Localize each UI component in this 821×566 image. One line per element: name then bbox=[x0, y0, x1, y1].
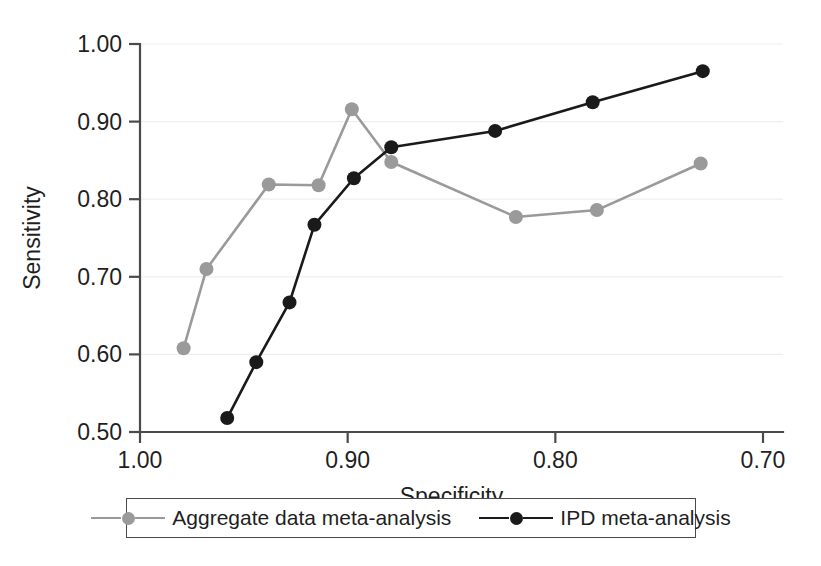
legend-item-ipd[interactable]: IPD meta-analysis bbox=[479, 506, 730, 530]
data-point[interactable] bbox=[177, 341, 191, 355]
data-point[interactable] bbox=[262, 177, 276, 191]
y-tick-label: 0.50 bbox=[77, 419, 122, 445]
legend-dot-icon bbox=[510, 512, 523, 525]
y-axis-title: Sensitivity bbox=[19, 186, 45, 290]
legend-line-right-segment bbox=[523, 517, 553, 520]
roc-chart-figure: 0.500.600.700.800.901.001.000.900.800.70… bbox=[0, 0, 821, 566]
data-point[interactable] bbox=[220, 411, 234, 425]
data-point[interactable] bbox=[590, 203, 604, 217]
data-point[interactable] bbox=[509, 210, 523, 224]
y-tick-label: 1.00 bbox=[77, 31, 122, 57]
legend-line-right-segment bbox=[135, 517, 165, 520]
data-point[interactable] bbox=[345, 102, 359, 116]
data-point[interactable] bbox=[283, 295, 297, 309]
legend-line-left-segment bbox=[479, 517, 509, 520]
data-point[interactable] bbox=[199, 262, 213, 276]
legend-label-aggregate: Aggregate data meta-analysis bbox=[172, 506, 451, 530]
series-line-1 bbox=[227, 71, 703, 418]
data-point[interactable] bbox=[488, 124, 502, 138]
y-tick-label: 0.80 bbox=[77, 186, 122, 212]
x-tick-label: 1.00 bbox=[118, 447, 163, 473]
data-point[interactable] bbox=[694, 157, 708, 171]
data-point[interactable] bbox=[384, 155, 398, 169]
x-tick-label: 0.90 bbox=[325, 447, 370, 473]
series-line-0 bbox=[184, 109, 701, 348]
x-tick-label: 0.80 bbox=[533, 447, 578, 473]
data-point[interactable] bbox=[312, 178, 326, 192]
y-tick-label: 0.70 bbox=[77, 264, 122, 290]
data-series bbox=[177, 64, 710, 425]
legend-marker-ipd-icon bbox=[479, 509, 553, 527]
y-tick-label: 0.60 bbox=[77, 341, 122, 367]
data-point[interactable] bbox=[696, 64, 710, 78]
grid-lines bbox=[140, 44, 783, 432]
data-point[interactable] bbox=[384, 140, 398, 154]
legend-item-aggregate[interactable]: Aggregate data meta-analysis bbox=[91, 506, 451, 530]
data-point[interactable] bbox=[249, 355, 263, 369]
data-point[interactable] bbox=[586, 95, 600, 109]
y-tick-label: 0.90 bbox=[77, 109, 122, 135]
legend-line-left-segment bbox=[91, 517, 121, 520]
data-point[interactable] bbox=[307, 218, 321, 232]
legend-marker-aggregate-icon bbox=[91, 509, 165, 527]
legend-label-ipd: IPD meta-analysis bbox=[560, 506, 730, 530]
tick-labels: 0.500.600.700.800.901.001.000.900.800.70 bbox=[77, 31, 785, 473]
chart-legend: Aggregate data meta-analysis IPD meta-an… bbox=[126, 498, 696, 538]
axes bbox=[140, 44, 783, 432]
x-tick-label: 0.70 bbox=[741, 447, 786, 473]
legend-dot-icon bbox=[122, 512, 135, 525]
data-point[interactable] bbox=[347, 171, 361, 185]
chart-canvas: 0.500.600.700.800.901.001.000.900.800.70… bbox=[0, 0, 821, 566]
